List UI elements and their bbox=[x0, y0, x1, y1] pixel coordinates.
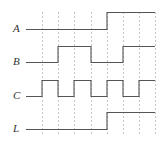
signal-label-a: A bbox=[13, 23, 20, 34]
signal-label-l: L bbox=[13, 123, 19, 134]
timing-diagram: A B C L bbox=[0, 0, 168, 142]
signal-waveform-a bbox=[26, 13, 155, 30]
signal-label-c: C bbox=[13, 90, 20, 101]
signal-label-b: B bbox=[13, 56, 20, 67]
signal-waveforms bbox=[26, 13, 155, 130]
signal-waveform-l bbox=[26, 113, 155, 130]
signal-waveform-c bbox=[26, 81, 155, 97]
grid-lines bbox=[43, 12, 156, 136]
signal-waveform-b bbox=[26, 47, 155, 63]
timing-diagram-canvas bbox=[0, 0, 168, 142]
